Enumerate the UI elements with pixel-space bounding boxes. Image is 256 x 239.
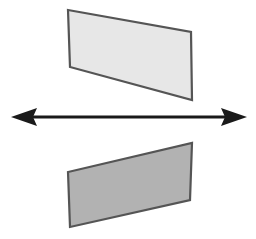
diagram-canvas <box>0 0 256 239</box>
reflection-diagram <box>0 0 256 239</box>
arrow-shaft <box>33 116 225 119</box>
